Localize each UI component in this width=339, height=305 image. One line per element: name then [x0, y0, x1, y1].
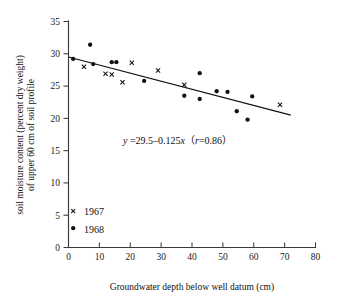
data-point-1968-4 — [114, 60, 118, 64]
y-tick-label-35: 35 — [51, 17, 61, 27]
x-axis-tick-labels: 01020304050607080 — [66, 252, 320, 262]
y-axis-tick-labels: 05101520253035 — [51, 17, 61, 253]
legend-item-1967: 1967 — [71, 206, 104, 217]
data-point-1967-3 — [120, 80, 124, 84]
data-point-1968-2 — [91, 62, 95, 66]
y-tick-label-20: 20 — [51, 114, 61, 124]
data-point-1968-9 — [215, 89, 219, 93]
data-point-1967-7 — [278, 103, 282, 107]
y-axis-title-line2: of upper 60 cm of soil profile — [26, 79, 36, 191]
scatter-plot-svg: 05101520253035 01020304050607080 y =29.5… — [0, 0, 339, 305]
data-point-1968-11 — [235, 109, 239, 113]
data-point-1967-0 — [82, 65, 86, 69]
x-tick-label-30: 30 — [156, 252, 166, 262]
data-point-1968-1 — [88, 43, 92, 47]
data-point-1968-10 — [225, 90, 229, 94]
y-tick-label-25: 25 — [51, 81, 61, 91]
x-tick-label-40: 40 — [187, 252, 197, 262]
y-axis-ticks — [64, 22, 69, 248]
x-tick-label-80: 80 — [311, 252, 321, 262]
x-tick-label-50: 50 — [218, 252, 228, 262]
data-point-1968-5 — [142, 79, 146, 83]
y-tick-label-10: 10 — [51, 178, 61, 188]
legend-item-1968: 1968 — [71, 224, 104, 235]
regression-equation-annotation: y =29.5–0.125x（r=0.86） — [122, 135, 232, 146]
y-tick-label-0: 0 — [55, 243, 60, 253]
x-tick-label-70: 70 — [280, 252, 290, 262]
data-point-1968-7 — [198, 71, 202, 75]
legend-marker-dot-icon — [71, 226, 75, 230]
y-tick-label-30: 30 — [51, 49, 61, 59]
x-tick-label-20: 20 — [126, 252, 136, 262]
data-point-1967-4 — [130, 61, 134, 65]
series-1967-markers — [82, 61, 282, 107]
data-point-1968-13 — [250, 94, 254, 98]
legend-label-1967: 1967 — [84, 206, 104, 217]
data-point-1967-2 — [110, 72, 114, 76]
data-point-1968-3 — [110, 60, 114, 64]
legend-marker-cross-icon — [71, 209, 75, 213]
data-point-1968-8 — [198, 97, 202, 101]
data-point-1968-6 — [182, 94, 186, 98]
x-tick-label-0: 0 — [66, 252, 71, 262]
x-axis-title: Groundwater depth below well datum (cm) — [110, 282, 274, 293]
y-tick-label-5: 5 — [55, 211, 60, 221]
legend-label-1968: 1968 — [84, 224, 104, 235]
x-tick-label-10: 10 — [95, 252, 105, 262]
data-point-1967-6 — [182, 83, 186, 87]
y-axis-title-line1: soil moisture content (percent dry weigh… — [15, 55, 26, 215]
regression-fit-line — [69, 57, 291, 115]
data-point-1967-1 — [103, 72, 107, 76]
data-point-1967-5 — [156, 68, 160, 72]
data-point-1968-12 — [245, 117, 249, 121]
x-axis-ticks — [69, 243, 316, 248]
chart-legend: 1967 1968 — [71, 206, 104, 235]
data-point-1968-0 — [71, 57, 75, 61]
chart-figure: 05101520253035 01020304050607080 y =29.5… — [0, 0, 339, 305]
y-tick-label-15: 15 — [51, 146, 61, 156]
x-tick-label-60: 60 — [249, 252, 259, 262]
